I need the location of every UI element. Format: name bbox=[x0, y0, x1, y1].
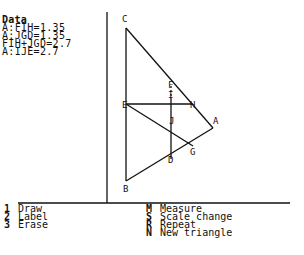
menu-right: MMeasure SScale change RRepeat NNew tria… bbox=[146, 205, 232, 237]
label-G: G bbox=[190, 147, 195, 157]
label-J: J bbox=[169, 116, 174, 126]
label-A: A bbox=[213, 116, 219, 126]
segment-EG bbox=[126, 104, 193, 146]
label-D: D bbox=[168, 155, 173, 165]
menu-item-new-triangle[interactable]: NNew triangle bbox=[146, 229, 232, 237]
menu-key: N bbox=[146, 229, 160, 237]
label-H: H bbox=[190, 100, 195, 110]
menu-left: 1Draw 2Label 3Erase bbox=[4, 205, 48, 229]
label-C: C bbox=[122, 14, 127, 24]
menu-label: Erase bbox=[18, 219, 48, 230]
label-B: B bbox=[123, 184, 128, 194]
label-I: I bbox=[168, 90, 173, 100]
label-E: E bbox=[122, 100, 127, 110]
menu-key: 3 bbox=[4, 221, 18, 229]
menu-label: New triangle bbox=[160, 227, 232, 238]
menu-item-erase[interactable]: 3Erase bbox=[4, 221, 48, 229]
segment-CA bbox=[126, 28, 213, 128]
label-F: F bbox=[168, 80, 173, 90]
